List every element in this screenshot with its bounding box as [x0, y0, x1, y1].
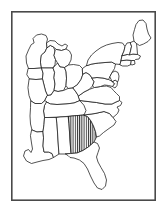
state-connecticut[interactable]	[120, 60, 132, 66]
eastern-us-map-svg	[0, 0, 166, 211]
map-figure: Eastern United States Outline Map Black …	[0, 0, 166, 211]
state-iowa[interactable]	[27, 68, 43, 80]
state-rhode-island[interactable]	[131, 61, 135, 66]
map-frame	[0, 0, 166, 211]
